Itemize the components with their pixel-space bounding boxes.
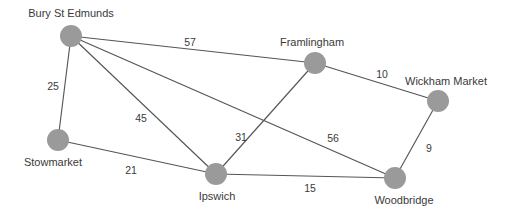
node-label-wickham: Wickham Market [405,75,487,87]
graph-node-bury[interactable] [60,25,82,47]
nodes-layer [47,25,449,189]
graph-edge-framlingham-ipswich [216,63,315,174]
graph-edge-ipswich-woodbridge [216,174,395,178]
edge-weight-bury-woodbridge: 56 [327,132,339,144]
graph-node-wickham[interactable] [427,90,449,112]
edge-weight-framlingham-ipswich: 31 [235,131,247,143]
edge-weight-stowmarket-ipswich: 21 [125,164,137,176]
node-label-stowmarket: Stowmarket [24,156,82,168]
graph-node-ipswich[interactable] [205,163,227,185]
edge-weight-bury-stowmarket: 25 [47,80,59,92]
edge-weight-bury-ipswich: 45 [135,112,147,124]
graph-diagram: 57254556103192115Bury St EdmundsFramling… [0,0,514,215]
graph-svg [0,0,514,215]
graph-edge-wickham-woodbridge [395,101,438,178]
edges-layer [58,36,438,178]
graph-edge-bury-ipswich [71,36,216,174]
graph-node-stowmarket[interactable] [47,129,69,151]
node-label-bury: Bury St Edmunds [28,7,114,19]
graph-edge-bury-stowmarket [58,36,71,140]
node-label-framlingham: Framlingham [280,36,344,48]
graph-node-framlingham[interactable] [304,52,326,74]
edge-weight-framlingham-wickham: 10 [376,68,388,80]
edge-weight-ipswich-woodbridge: 15 [304,182,316,194]
edge-weight-wickham-woodbridge: 9 [426,142,432,154]
node-label-ipswich: Ipswich [199,190,236,202]
edge-weight-bury-framlingham: 57 [184,36,196,48]
node-label-woodbridge: Woodbridge [374,194,433,206]
graph-edge-bury-woodbridge [71,36,395,178]
graph-node-woodbridge[interactable] [384,167,406,189]
